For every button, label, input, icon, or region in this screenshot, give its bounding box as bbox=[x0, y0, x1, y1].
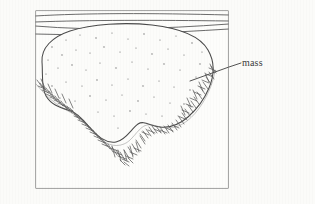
framed-field bbox=[35, 10, 229, 189]
mass-label: mass bbox=[242, 57, 263, 69]
figure-root: mass bbox=[0, 0, 315, 204]
figure-canvas bbox=[0, 0, 315, 204]
